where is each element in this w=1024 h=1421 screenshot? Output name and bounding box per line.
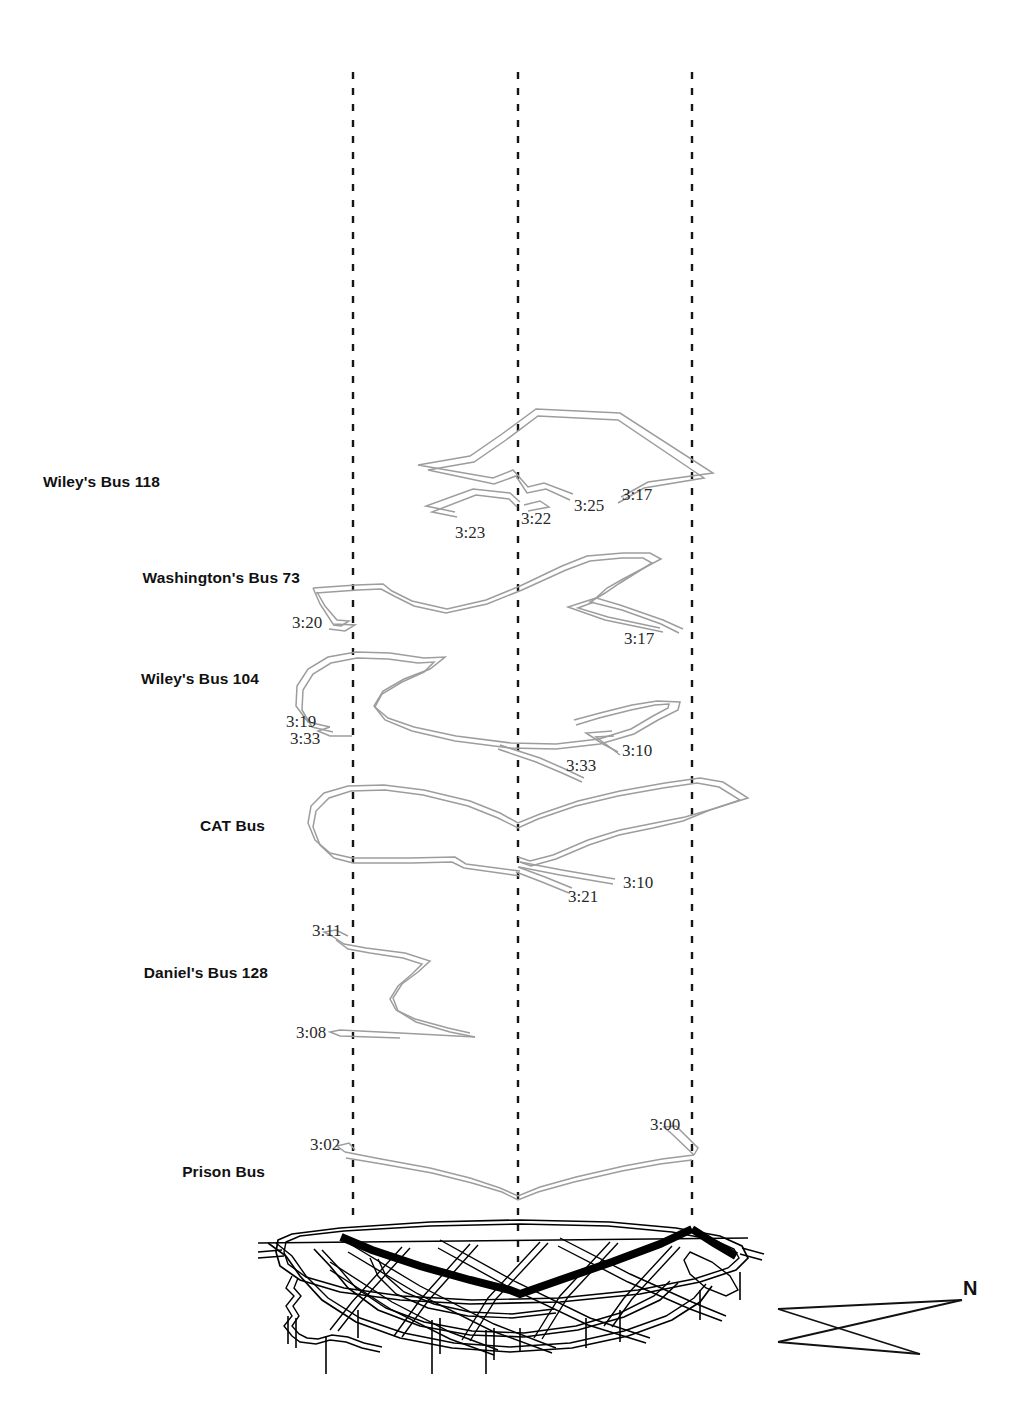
time-label-317-a: 3:17 [622, 485, 652, 505]
time-label-320: 3:20 [292, 613, 322, 633]
time-label-325: 3:25 [574, 496, 604, 516]
time-label-300: 3:00 [650, 1115, 680, 1135]
compass-north-arm [778, 1300, 962, 1309]
compass-cross-arm-2 [778, 1300, 962, 1342]
compass-rose [778, 1300, 962, 1354]
base-map [258, 1220, 764, 1374]
bus-label-daniels-bus-128: Daniel's Bus 128 [144, 964, 268, 982]
timeline-axes [353, 72, 692, 1262]
time-label-310-b: 3:10 [623, 873, 653, 893]
space-time-cube-figure: .traj { fill:none; stroke:#9d9d9d; strok… [0, 0, 1024, 1421]
time-label-322: 3:22 [521, 509, 551, 529]
trajectory-cat-bus [308, 778, 748, 893]
time-label-333-b: 3:33 [566, 756, 596, 776]
time-label-333-a: 3:33 [290, 729, 320, 749]
time-label-321: 3:21 [568, 887, 598, 907]
trajectory-daniels-bus-128 [324, 930, 475, 1038]
bus-label-cat-bus: CAT Bus [200, 817, 265, 835]
bus-label-wileys-bus-104: Wiley's Bus 104 [141, 670, 259, 688]
bus-label-prison-bus: Prison Bus [182, 1163, 265, 1181]
time-label-302: 3:02 [310, 1135, 340, 1155]
figure-canvas: .traj { fill:none; stroke:#9d9d9d; strok… [0, 0, 1024, 1421]
trajectory-washingtons-bus-73 [313, 553, 683, 633]
time-label-308: 3:08 [296, 1023, 326, 1043]
trajectory-wileys-bus-118 [418, 409, 713, 517]
time-label-310-a: 3:10 [622, 741, 652, 761]
time-label-317-b: 3:17 [624, 629, 654, 649]
bus-label-wileys-bus-118: Wiley's Bus 118 [43, 473, 160, 491]
time-label-323: 3:23 [455, 523, 485, 543]
compass-north-label: N [963, 1277, 977, 1300]
highlighted-route-branch [692, 1229, 736, 1256]
time-label-311: 3:11 [312, 921, 342, 941]
bus-label-washingtons-bus-73: Washington's Bus 73 [143, 569, 300, 587]
